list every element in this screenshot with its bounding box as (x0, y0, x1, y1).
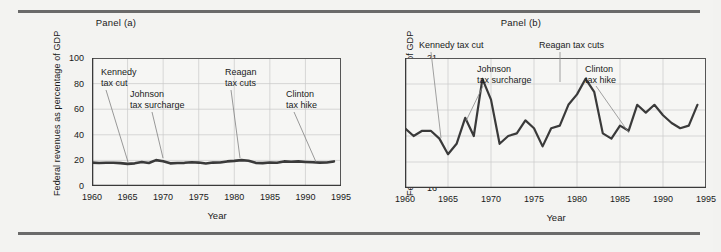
panel-a-ytick-40: 40 (58, 130, 84, 140)
panel-a-xtick-1970: 1970 (143, 192, 183, 202)
panel-b-xtick-1990: 1990 (643, 194, 683, 204)
panel-a-xtick-1960: 1960 (72, 192, 112, 202)
panel-b-xtick-1960: 1960 (385, 194, 425, 204)
panel-b-title: Panel (b) (343, 17, 699, 28)
panel-b-xtick-1995: 1995 (686, 194, 721, 204)
panel-a-ytick-0: 0 (58, 181, 84, 191)
panel-a-annotation-clinton: Clinton tax hike (286, 89, 317, 110)
panel-a-annotation-reagan: Reagan tax cuts (225, 67, 257, 88)
panel-a: Panel (a) Federal revenues as percentage… (0, 0, 356, 252)
panel-a-ytick-60: 60 (58, 104, 84, 114)
panel-a-xtick-1985: 1985 (250, 192, 290, 202)
panel-b-xtick-1965: 1965 (428, 194, 468, 204)
panel-b-xtick-1970: 1970 (471, 194, 511, 204)
panel-b-annotation-reagan: Reagan tax cuts (539, 40, 604, 51)
panel-a-annotation-johnson: Johnson tax surcharge (130, 89, 185, 110)
panel-a-ytick-20: 20 (58, 155, 84, 165)
panel-a-xtick-1975: 1975 (179, 192, 219, 202)
panel-a-ytick-100: 100 (58, 53, 84, 63)
panel-a-x-axis-label: Year (132, 210, 302, 221)
panel-a-title: Panel (a) (0, 17, 294, 28)
panel-b-annotation-kennedy: Kennedy tax cut (419, 40, 484, 51)
panel-b-x-axis-label: Year (471, 212, 641, 223)
panel-b-annotation-johnson: Johnson tax surcharge (477, 64, 532, 85)
panel-b-xtick-1975: 1975 (514, 194, 554, 204)
panel-b-plot-area (405, 58, 706, 188)
panel-a-xtick-1965: 1965 (108, 192, 148, 202)
panel-a-xtick-1980: 1980 (214, 192, 254, 202)
panel-b: Panel (b) Federal revenues as percentage… (353, 0, 709, 252)
panel-a-xtick-1990: 1990 (285, 192, 325, 202)
panel-b-series-svg (405, 58, 706, 188)
panel-b-xtick-1980: 1980 (557, 194, 597, 204)
panel-b-annotation-clinton: Clinton tax hike (585, 64, 616, 85)
panel-a-ytick-80: 80 (58, 79, 84, 89)
panel-a-annotation-kennedy: Kennedy tax cut (101, 67, 137, 88)
panel-b-xtick-1985: 1985 (600, 194, 640, 204)
